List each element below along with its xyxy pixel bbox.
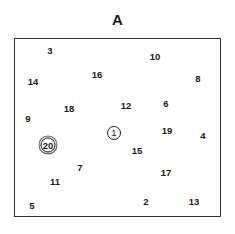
node-20: 20: [41, 138, 56, 153]
node-3: 3: [47, 46, 52, 56]
diagram-title: A: [0, 11, 235, 28]
node-13: 13: [189, 197, 200, 207]
node-6: 6: [163, 99, 168, 109]
node-18: 18: [64, 104, 75, 114]
node-8: 8: [195, 74, 200, 84]
node-9: 9: [25, 114, 30, 124]
node-14: 14: [28, 77, 39, 87]
node-19: 19: [162, 126, 173, 136]
node-10: 10: [150, 52, 161, 62]
node-4: 4: [200, 131, 205, 141]
node-17: 17: [161, 168, 172, 178]
node-15: 15: [132, 146, 143, 156]
node-5: 5: [29, 201, 34, 211]
node-7: 7: [77, 163, 82, 173]
node-2: 2: [143, 197, 148, 207]
node-11: 11: [50, 177, 60, 187]
node-12: 12: [121, 101, 132, 111]
node-1: 1: [107, 126, 121, 140]
node-16: 16: [92, 70, 103, 80]
